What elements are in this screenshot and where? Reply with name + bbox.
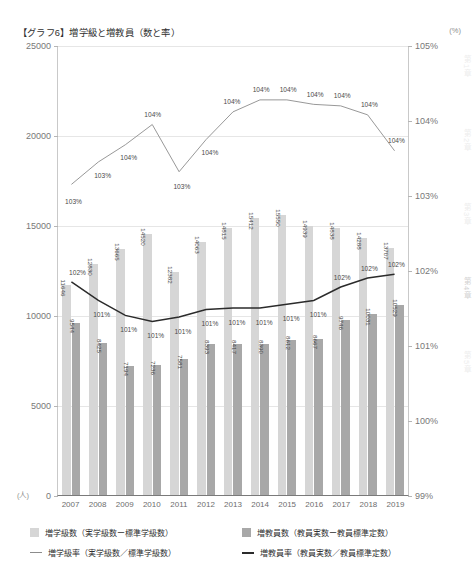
x-axis-tick-label: 2015 xyxy=(274,500,301,509)
bar-value-label: 14288 xyxy=(356,232,363,250)
axis-tick xyxy=(54,496,58,497)
bar-group: 148158417 xyxy=(220,46,247,495)
x-axis-tick-label: 2012 xyxy=(192,500,219,509)
bar-group: 1370710529 xyxy=(381,46,408,495)
bar-value-label: 11646 xyxy=(60,280,67,297)
bar: 10031 xyxy=(368,314,377,495)
bar-value-label: 14838 xyxy=(329,222,336,240)
line-value-label: 104% xyxy=(388,137,405,144)
chapter-tab-3[interactable]: 第3章 xyxy=(456,203,472,226)
bar: 7194 xyxy=(126,366,135,495)
bar-value-label: 8612 xyxy=(285,336,292,350)
bar: 14063 xyxy=(197,242,206,495)
bar: 14288 xyxy=(359,238,368,495)
axis-tick xyxy=(408,46,412,47)
chart-page: 【グラフ6】増学級と増教員（数と率） (%) (人) 2500020000150… xyxy=(0,0,475,577)
right-axis-tick-label: 100% xyxy=(415,416,438,426)
axis-tick xyxy=(408,421,412,422)
left-axis-tick-label: 25000 xyxy=(26,41,51,51)
bar-group: 136657194 xyxy=(112,46,139,495)
line-thick-icon xyxy=(242,552,254,554)
bar-value-label: 15412 xyxy=(248,212,255,230)
bar: 8417 xyxy=(233,344,242,496)
line-value-label: 104% xyxy=(280,86,297,93)
line-value-label: 101% xyxy=(283,314,300,321)
line-value-label: 104% xyxy=(253,86,270,93)
line-value-label: 104% xyxy=(307,90,324,97)
line-value-label: 103% xyxy=(173,183,190,190)
bar-group: 128308425 xyxy=(85,46,112,495)
legend-row-lines: 増学級率（実学級数／標準学級数） 増教員率（教員実数／教員標準定数） xyxy=(30,547,450,558)
bar: 11646 xyxy=(62,285,71,495)
bar: 12382 xyxy=(170,272,179,495)
line-value-label: 101% xyxy=(120,326,137,333)
plot-area: 2500020000150001000050000 105%104%103%10… xyxy=(57,46,409,496)
x-axis-tick-label: 2016 xyxy=(301,500,328,509)
legend-label: 増学級数（実学級数ー標準学級数） xyxy=(45,527,173,538)
bar: 8425 xyxy=(99,343,108,495)
chapter-tab-4[interactable]: 第4章 xyxy=(456,277,472,300)
line-value-label: 101% xyxy=(174,327,191,334)
line-thin-icon xyxy=(30,552,42,553)
bar-value-label: 7194 xyxy=(123,361,130,375)
left-axis-tick-label: 5000 xyxy=(31,401,51,411)
line-value-label: 104% xyxy=(361,101,378,108)
bar: 8612 xyxy=(287,340,296,495)
bar: 9544 xyxy=(72,323,81,495)
line-value-label: 101% xyxy=(93,311,110,318)
bar: 8390 xyxy=(260,344,269,495)
bar: 15412 xyxy=(251,218,260,495)
bar: 10529 xyxy=(395,305,404,495)
swatch-dark-icon xyxy=(242,528,251,537)
axis-tick xyxy=(408,196,412,197)
chapter-tab-5[interactable]: 第5章 xyxy=(456,351,472,374)
x-axis-tick-label: 2008 xyxy=(84,500,111,509)
bar-value-label: 9544 xyxy=(69,319,76,333)
right-axis-tick-label: 103% xyxy=(415,191,438,201)
axis-tick xyxy=(408,346,412,347)
axis-tick xyxy=(408,271,412,272)
page-title: 【グラフ6】増学級と増教員（数と率） xyxy=(18,25,180,39)
right-axis-unit: (%) xyxy=(449,26,461,35)
line-value-label: 104% xyxy=(144,110,161,117)
line-value-label: 103% xyxy=(65,197,82,204)
bar-value-label: 10031 xyxy=(365,309,372,327)
axis-tick xyxy=(408,496,412,497)
chapter-tabs[interactable]: 第1章第2章第3章第4章第5章 xyxy=(456,55,472,425)
x-axis-tick-label: 2010 xyxy=(138,500,165,509)
bar-value-label: 8393 xyxy=(204,340,211,354)
right-axis-tick-label: 105% xyxy=(415,41,438,51)
bar-value-label: 8425 xyxy=(96,339,103,353)
bar: 7236 xyxy=(153,365,162,495)
bar-value-label: 7236 xyxy=(150,361,157,375)
line-value-label: 102% xyxy=(361,264,378,271)
right-axis-tick-label: 99% xyxy=(415,491,433,501)
bar: 8667 xyxy=(314,339,323,495)
line-value-label: 102% xyxy=(388,260,405,267)
chart-legend: 増学級数（実学級数ー標準学級数） 増教員数（教員実数ー教員標準定数） 増学級率（… xyxy=(30,527,450,567)
legend-item-zoukyouinsuu: 増教員数（教員実数ー教員標準定数） xyxy=(242,527,393,538)
bar-value-label: 14063 xyxy=(194,236,201,254)
right-axis-tick-label: 102% xyxy=(415,266,438,276)
x-axis-tick-label: 2011 xyxy=(165,500,192,509)
bar-value-label: 13665 xyxy=(114,243,121,261)
bar-value-label: 15550 xyxy=(275,209,282,227)
bar-value-label: 7581 xyxy=(177,354,184,368)
bar: 15550 xyxy=(278,215,287,495)
bar: 8393 xyxy=(207,344,216,495)
bar: 14815 xyxy=(224,228,233,495)
bar-value-label: 8417 xyxy=(231,339,238,353)
x-axis-tick-label: 2009 xyxy=(111,500,138,509)
chapter-tab-2[interactable]: 第2章 xyxy=(456,129,472,152)
left-axis-unit: (人) xyxy=(17,489,29,500)
bar-group: 140638393 xyxy=(193,46,220,495)
line-value-label: 104% xyxy=(201,148,218,155)
left-axis-tick-label: 15000 xyxy=(26,221,51,231)
x-axis-tick-label: 2007 xyxy=(57,500,84,509)
chapter-tab-1[interactable]: 第1章 xyxy=(456,55,472,78)
line-value-label: 102% xyxy=(69,269,86,276)
bar: 14939 xyxy=(305,226,314,495)
legend-label: 増教員数（教員実数ー教員標準定数） xyxy=(257,527,393,538)
bar-groups: 1164695441283084251366571941452072361238… xyxy=(58,46,408,495)
line-value-label: 101% xyxy=(201,320,218,327)
